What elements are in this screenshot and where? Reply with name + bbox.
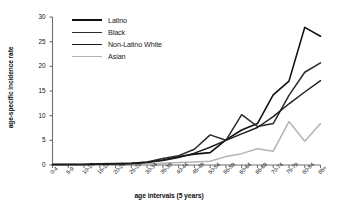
legend-label-black: Black <box>108 28 125 37</box>
y-tick-label: 5 <box>30 136 46 143</box>
y-tick-label: 10 <box>30 112 46 119</box>
legend-item-non-latino-white: Non-Latino White <box>72 38 187 50</box>
x-axis-title: age intervals (5 years) <box>0 192 338 199</box>
legend-item-latino: Latino <box>72 14 187 26</box>
legend-item-asian: Asian <box>72 50 187 62</box>
legend-item-black: Black <box>72 26 187 38</box>
y-tick-label: 0 <box>30 161 46 168</box>
legend-label-latino: Latino <box>108 16 127 25</box>
y-tick-label: 20 <box>30 62 46 69</box>
legend-swatch-black <box>72 32 102 33</box>
legend-swatch-non-latino-white <box>72 44 102 45</box>
legend-label-non-latino-white: Non-Latino White <box>108 40 162 49</box>
legend-label-asian: Asian <box>108 52 125 61</box>
y-tick-label: 15 <box>30 87 46 94</box>
legend-swatch-asian <box>72 56 102 57</box>
y-tick-label: 30 <box>30 13 46 20</box>
legend: Latino Black Non-Latino White Asian <box>72 14 187 62</box>
y-tick-label: 25 <box>30 38 46 45</box>
incidence-rate-line-chart: age-specific incidence rate age interval… <box>0 0 338 215</box>
legend-swatch-latino <box>72 19 102 21</box>
